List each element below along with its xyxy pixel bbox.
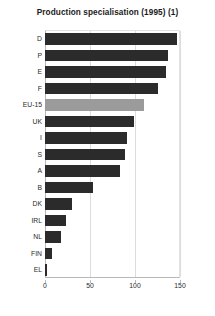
category-label-b: B [3,180,45,197]
category-axis-labels: DPEFEU-15UKISABDKIRLNLFINEL [0,30,45,278]
category-label-irl: IRL [3,213,45,230]
category-label-d: D [3,31,45,48]
bar-eu-15[interactable] [45,99,144,111]
category-label-eu-15: EU-15 [3,97,45,114]
bar-row [45,229,180,246]
bar-row [45,180,180,197]
bar-row [45,114,180,131]
bar-row [45,196,180,213]
category-label-i: I [3,130,45,147]
bar-row [45,97,180,114]
category-label-e: E [3,64,45,81]
bar-row [45,163,180,180]
bars-layer [45,30,180,278]
bar-row [45,31,180,48]
xtick-label-100: 100 [129,282,140,289]
category-label-el: EL [3,262,45,279]
bar-d[interactable] [45,33,177,45]
bar-a[interactable] [45,165,120,177]
category-label-f: F [3,81,45,98]
bar-row [45,48,180,65]
bar-nl[interactable] [45,231,61,243]
category-label-a: A [3,163,45,180]
chart-container: Production specialisation (1995) (1) DPE… [0,0,215,316]
category-label-uk: UK [3,114,45,131]
category-label-p: P [3,48,45,65]
bar-row [45,213,180,230]
bar-i[interactable] [45,132,127,144]
bar-el[interactable] [45,264,47,276]
bar-row [45,64,180,81]
category-label-fin: FIN [3,246,45,263]
gridline-150 [180,31,181,277]
bar-p[interactable] [45,50,168,62]
category-label-s: S [3,147,45,164]
bar-dk[interactable] [45,198,72,210]
category-label-nl: NL [3,229,45,246]
xtick-label-0: 0 [43,282,47,289]
bar-s[interactable] [45,149,125,161]
bar-b[interactable] [45,182,93,194]
bar-row [45,246,180,263]
bar-uk[interactable] [45,116,134,128]
xtick-label-50: 50 [86,282,94,289]
bar-row [45,130,180,147]
bar-fin[interactable] [45,248,52,260]
chart-title: Production specialisation (1995) (1) [0,8,215,17]
xtick-label-150: 150 [174,282,185,289]
bar-row [45,262,180,279]
bar-e[interactable] [45,66,166,78]
bar-row [45,147,180,164]
bar-row [45,81,180,98]
category-label-dk: DK [3,196,45,213]
value-axis-labels: 050100150 [0,280,215,300]
bar-irl[interactable] [45,215,66,227]
bar-f[interactable] [45,83,158,95]
